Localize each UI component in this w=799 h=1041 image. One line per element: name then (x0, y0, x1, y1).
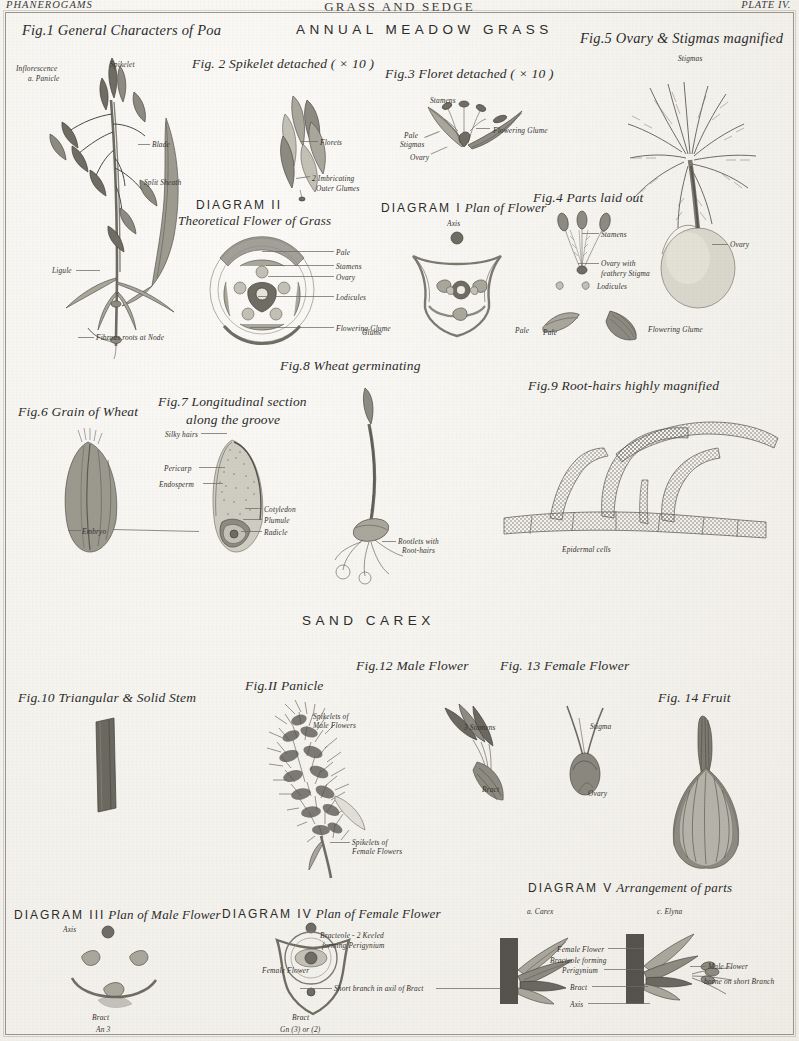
fig8-label-rootlets-1: Rootlets with (398, 537, 439, 546)
fig1-title: Fig.1 General Characters of Poa (22, 22, 221, 39)
fig7-leader-pericarp (199, 467, 225, 468)
fig1-leader-ligule (76, 270, 100, 271)
plate-page: PHANEROGAMS GRASS AND SEDGE PLATE IV. AN… (0, 0, 799, 1041)
fig7-leader-silky (201, 433, 227, 434)
diagram5-label-male-1: Male Flower (708, 962, 748, 971)
diagram1-label-pale: Pale (515, 326, 529, 335)
diagram5-leader-axis (588, 1003, 650, 1004)
diagram2-leader-stamens (266, 265, 334, 266)
fig7-title-line1: Fig.7 Longitudinal section (158, 394, 307, 410)
diagram2-name: Theoretical Flower of Grass (178, 213, 331, 229)
diagram2-number: DIAGRAM II (196, 198, 282, 213)
fig9-title: Fig.9 Root-hairs highly magnified (528, 378, 719, 394)
diagram2-label-lodicules: Lodicules (336, 293, 366, 302)
fig2-title: Fig. 2 Spikelet detached ( × 10 ) (192, 56, 374, 72)
fig3-label-ovary: Ovary (410, 153, 429, 162)
fig7-title-line2: along the groove (186, 412, 280, 428)
diagram3-label-an3: An 3 (96, 1025, 110, 1034)
diagram4-label-gn: Gn (3) or (2) (280, 1025, 320, 1034)
fig7-label-endosperm: Endosperm (159, 480, 194, 489)
diagram5-leader-bracteole (604, 969, 644, 970)
diagram5-leader-female (608, 948, 644, 949)
diagram5-label-female-flower: Female Flower (557, 945, 604, 954)
diagram5-leader-male (690, 966, 706, 967)
diagram4-label-bracteole-2: forming Perigynium (322, 941, 384, 950)
fig5-title: Fig.5 Ovary & Stigmas magnified (580, 30, 783, 47)
diagram5-label-axis: Axis (570, 1000, 583, 1009)
fig3-title: Fig.3 Floret detached ( × 10 ) (385, 66, 554, 82)
fig2-label-glumes-1: 2 Imbricating (312, 174, 354, 183)
diagram1-title: DIAGRAM I Plan of Flower (381, 200, 546, 216)
fig10-drawing (82, 712, 142, 822)
fig4-label-ovary-2: feathery Stigma (601, 269, 650, 278)
fig3-label-stigmas: Stigmas (400, 140, 424, 149)
fig4-title: Fig.4 Parts laid out (533, 190, 644, 206)
fig8-drawing (305, 380, 445, 590)
fig7-label-pericarp: Pericarp (164, 464, 191, 473)
diagram1-drawing (395, 226, 535, 342)
fig7-label-radicle: Radicle (264, 528, 288, 537)
fig8-label-rootlets-2: Root-hairs (402, 546, 435, 555)
diagram4-number-text: DIAGRAM IV (222, 907, 313, 921)
fig5-leader-ovary (712, 244, 728, 245)
fig1-drawing (16, 40, 226, 360)
fig14-drawing (650, 712, 770, 872)
diagram1-number-text: DIAGRAM I (381, 201, 462, 215)
fig11-label-female-2: Female Flowers (352, 847, 402, 856)
fig1-label-panicle: a. Panicle (28, 74, 59, 83)
fig7-label-cotyledon: Cotyledon (264, 505, 296, 514)
fig1-leader-roots (78, 337, 94, 338)
diagram5-name-text: Arrangement of parts (616, 880, 732, 895)
fig9-label-epidermal-cells: Epidermal cells (562, 545, 611, 554)
diagram3-name-text: Plan of Male Flower (108, 907, 220, 922)
fig3-label-flowering-glume: Flowering Glume (493, 126, 548, 135)
diagram3-drawing (36, 922, 196, 1014)
section-title-annual-meadow-grass: ANNUAL MEADOW GRASS (296, 22, 553, 37)
diagram5-title: DIAGRAM V Arrangement of parts (528, 880, 732, 896)
section-title-sand-carex: SAND CAREX (302, 613, 435, 628)
diagram4-label-bract: Bract (292, 1013, 309, 1022)
fig12-label-bract: Bract (482, 785, 499, 794)
fig12-label-stamens: 3 Stamens (464, 723, 496, 732)
fig7-leader-radicle (241, 531, 262, 532)
fig3-label-pale: Pale (404, 131, 418, 140)
fig10-title: Fig.10 Triangular & Solid Stem (18, 690, 196, 706)
fig6-title: Fig.6 Grain of Wheat (18, 404, 138, 420)
fig1-label-blade: Blade (152, 140, 170, 149)
diagram4-label-bracteole-1: Bracteole - 2 Keeled (320, 931, 384, 940)
diagram5-label-bracteole-2: Perigynium (562, 966, 598, 975)
diagram2-leader-lodicules (258, 296, 334, 297)
diagram1-label-glume: Glume (362, 328, 382, 337)
diagram2-label-pale: Pale (336, 248, 350, 257)
fig1-label-split-sheath: Split Sheath (144, 178, 181, 187)
fig9-drawing (490, 400, 780, 550)
fig3-leader-glume (476, 128, 490, 129)
diagram2-name-text: Theoretical Flower of Grass (178, 213, 331, 228)
fig14-title: Fig. 14 Fruit (658, 690, 731, 706)
fig2-leader-florets (300, 141, 318, 142)
fig4-label-ovary-1: Ovary with (601, 259, 636, 268)
fig12-title: Fig.12 Male Flower (356, 658, 469, 674)
fig7-leader-plumule (243, 519, 262, 520)
fig7-leader-endosperm (203, 483, 223, 484)
fig4-label-lodicules: Lodicules (597, 282, 627, 291)
diagram5-label-male-2: borne on short Branch (704, 977, 774, 986)
fig8-title: Fig.8 Wheat germinating (280, 358, 421, 374)
diagram4-label-female-flower: Female Flower (262, 966, 309, 975)
fig6-leader-embryo (68, 530, 81, 531)
diagram4-label-short-branch: Short branch in axil of Bract (334, 984, 424, 993)
fig4-label-stamens: Stamens (601, 230, 627, 239)
diagram5-label-a-carex: a. Carex (527, 907, 553, 916)
diagram4-leader-branch-left (300, 988, 332, 989)
diagram2-label-ovary: Ovary (336, 273, 355, 282)
diagram2-drawing (200, 232, 330, 352)
fig13-title: Fig. 13 Female Flower (500, 658, 629, 674)
running-head-right: PLATE IV. (741, 0, 791, 10)
fig4-label-pale: Pale (543, 328, 557, 337)
fig1-label-spikelet: Spikelet (110, 60, 135, 69)
diagram3-label-bract: Bract (92, 1013, 109, 1022)
fig1-label-inflorescence: Inflorescence (16, 64, 57, 73)
diagram2-leader-glume (250, 327, 334, 328)
fig4-label-flowering-glume: Flowering Glume (648, 325, 703, 334)
fig13-label-stigma: Stigma (590, 722, 611, 731)
